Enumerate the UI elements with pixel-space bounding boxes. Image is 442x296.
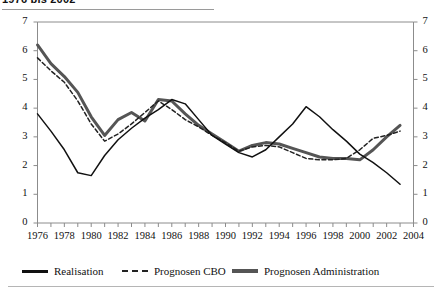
legend-item-prognosen-cbo: Prognosen CBO — [122, 262, 226, 280]
y-tick-label-right: 4 — [423, 101, 442, 112]
legend-item-prognosen-administration: Prognosen Administration — [232, 262, 379, 280]
y-tick-label: 5 — [2, 72, 28, 83]
y-tick-label: 0 — [2, 216, 28, 227]
y-tick-label-right: 6 — [423, 44, 442, 55]
y-tick-label-right: 2 — [423, 159, 442, 170]
legend-swatch-icon — [122, 270, 148, 272]
legend-item-realisation: Realisation — [22, 262, 104, 280]
chart-figure: 1976 bis 2002 01234567 01234567 19761978… — [0, 0, 442, 296]
legend-label: Prognosen Administration — [264, 265, 379, 277]
y-tick-label: 2 — [2, 159, 28, 170]
y-tick-label: 6 — [2, 44, 28, 55]
legend-label: Realisation — [54, 265, 104, 277]
x-tick-label: 2004 — [394, 230, 434, 241]
y-tick-label: 3 — [2, 130, 28, 141]
y-tick-label-right: 5 — [423, 72, 442, 83]
chart-svg — [0, 11, 442, 255]
data-series-group — [38, 45, 401, 184]
title-divider — [2, 9, 214, 10]
legend-divider — [8, 286, 434, 287]
legend-label: Prognosen CBO — [154, 265, 226, 277]
y-tick-label-right: 3 — [423, 130, 442, 141]
series-line-prognosen-administration — [38, 45, 401, 160]
y-tick-label-right: 0 — [423, 216, 442, 227]
y-tick-label-right: 1 — [423, 187, 442, 198]
y-tick-label-right: 7 — [423, 15, 442, 26]
series-line-realisation — [38, 100, 401, 185]
chart-title-strip: 1976 bis 2002 — [0, 0, 442, 11]
legend-swatch-icon — [232, 269, 258, 273]
page-title: 1976 bis 2002 — [2, 0, 76, 5]
series-line-prognosen-cbo — [38, 58, 401, 160]
y-tick-label: 7 — [2, 15, 28, 26]
legend-swatch-icon — [22, 270, 48, 273]
y-tick-label: 4 — [2, 101, 28, 112]
chart-legend: RealisationPrognosen CBOPrognosen Admini… — [0, 262, 442, 280]
chart-plot-area: 01234567 01234567 1976197819801982198419… — [0, 11, 442, 255]
y-tick-label: 1 — [2, 187, 28, 198]
